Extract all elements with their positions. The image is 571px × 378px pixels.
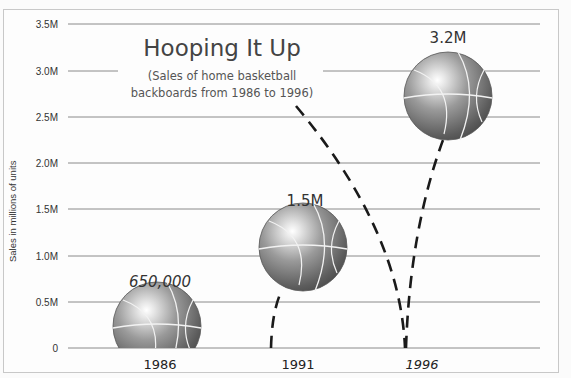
data-label-1986: 650,000 (129, 273, 191, 291)
chart-subtitle-line1: (Sales of home basketball (148, 69, 297, 83)
ytick-2.5m: 2.5M (36, 112, 58, 123)
ball-1996 (404, 52, 492, 140)
y-axis-ticks: 3.5M 3.0M 2.5M 2.0M 1.5M 1.0M 0.5M 0 (36, 19, 59, 354)
chart-title: Hooping It Up (143, 35, 300, 61)
data-label-1991: 1.5M (287, 192, 324, 210)
ytick-0: 0 (52, 343, 58, 354)
ytick-1.5m: 1.5M (36, 204, 58, 215)
chart: 3.5M 3.0M 2.5M 2.0M 1.5M 1.0M 0.5M 0 Sal… (0, 0, 571, 378)
ytick-2.0m: 2.0M (36, 158, 58, 169)
y-axis-label: Sales in millions of units (7, 160, 18, 262)
ytick-3.0m: 3.0M (36, 66, 58, 77)
ytick-3.5m: 3.5M (36, 19, 58, 30)
chart-subtitle-line2: backboards from 1986 to 1996) (131, 86, 313, 100)
ball-1991 (259, 203, 347, 291)
ytick-0.5m: 0.5M (36, 297, 58, 308)
ytick-1.0m: 1.0M (36, 251, 58, 262)
xtick-1991: 1991 (281, 357, 314, 372)
xtick-1986: 1986 (143, 357, 176, 372)
xtick-1996: 1996 (405, 357, 438, 372)
data-label-1996: 3.2M (430, 29, 467, 47)
